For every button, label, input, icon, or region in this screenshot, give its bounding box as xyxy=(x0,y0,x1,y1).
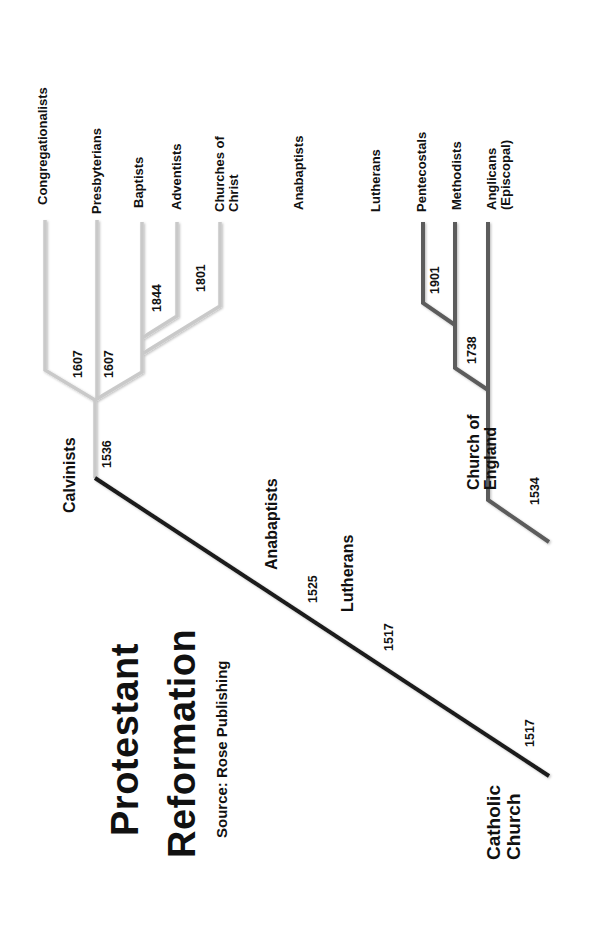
year-calvinists: 1536 xyxy=(101,440,114,468)
year-catholic-split: 1517 xyxy=(524,719,537,747)
label-lutherans-group: Lutherans xyxy=(340,535,357,612)
methodists-branch xyxy=(455,222,488,390)
label-baptists: Baptists xyxy=(132,157,146,208)
adventists-branch xyxy=(142,222,177,338)
label-anabaptists: Anabaptists xyxy=(292,136,306,210)
label-catholic-church: Catholic Church xyxy=(484,785,524,860)
congregationalists-branch xyxy=(45,220,95,400)
label-church-of-england: Church of England xyxy=(466,414,500,490)
year-anabaptists: 1525 xyxy=(307,575,320,603)
year-pentecostals: 1901 xyxy=(429,266,442,294)
label-lutherans: Lutherans xyxy=(369,149,383,212)
label-calvinists: Calvinists xyxy=(62,437,79,513)
label-churches-of-christ: Churches of Christ xyxy=(213,136,240,212)
label-anglicans: Anglicans (Episcopal) xyxy=(485,140,512,210)
title-line-2: Reformation xyxy=(163,629,203,858)
protestant-reformation-diagram: Protestant Reformation Source: Rose Publ… xyxy=(0,0,593,942)
title-line-1: Protestant xyxy=(106,643,146,836)
year-lutherans: 1517 xyxy=(383,623,396,651)
label-congregationalists: Congregationalists xyxy=(36,87,50,205)
label-adventists: Adventists xyxy=(170,144,184,210)
source-credit: Source: Rose Publishing xyxy=(214,660,230,838)
year-methodists: 1738 xyxy=(466,336,479,364)
label-presbyterians: Presbyterians xyxy=(90,128,104,214)
label-anabaptists-group: Anabaptists xyxy=(264,478,281,570)
year-congregationalists: 1607 xyxy=(72,350,85,378)
year-church-of-england: 1534 xyxy=(529,477,542,505)
year-churches-of-christ: 1801 xyxy=(195,264,208,292)
label-methodists: Methodists xyxy=(450,141,464,210)
year-presbyterians: 1607 xyxy=(103,350,116,378)
year-adventists: 1844 xyxy=(151,284,164,312)
label-pentecostals: Pentecostals xyxy=(415,132,429,212)
